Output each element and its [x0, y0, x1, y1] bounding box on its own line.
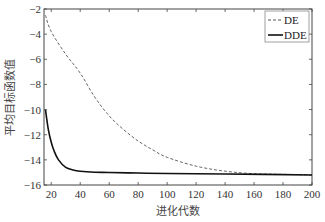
legend-dde-label: DDE: [284, 29, 307, 41]
y-tick-label: −6: [29, 53, 41, 65]
y-tick-label: −14: [24, 154, 42, 166]
x-tick-label: 120: [188, 188, 205, 200]
x-axis-label: 进化代数: [156, 204, 200, 218]
y-tick-label: −8: [29, 78, 41, 90]
x-tick-label: 200: [304, 188, 321, 200]
y-tick-label: −16: [24, 179, 42, 191]
line-chart: 20406080100120140160180200−2−4−6−8−10−12…: [0, 0, 325, 222]
y-tick-label: −4: [29, 28, 41, 40]
x-tick-label: 160: [246, 188, 263, 200]
y-tick-label: −10: [24, 104, 42, 116]
x-tick-label: 140: [217, 188, 234, 200]
x-tick-label: 60: [104, 188, 116, 200]
legend: DE DDE: [265, 11, 309, 42]
series-dde-line: [45, 110, 312, 175]
x-tick-label: 40: [75, 188, 87, 200]
legend-de-label: DE: [284, 14, 299, 26]
x-tick-label: 180: [275, 188, 292, 200]
x-tick-label: 100: [159, 188, 176, 200]
x-tick-label: 80: [133, 188, 145, 200]
y-tick-label: −2: [29, 3, 41, 15]
y-tick-label: −12: [24, 129, 41, 141]
x-tick-label: 20: [46, 188, 58, 200]
y-axis-label: 平均目标函数值: [3, 59, 17, 136]
